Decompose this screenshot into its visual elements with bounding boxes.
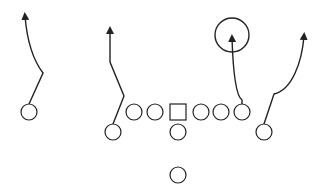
route-te-arrow xyxy=(232,38,242,104)
player-center xyxy=(170,104,186,120)
player-rb xyxy=(170,167,186,183)
route-right-wr-arrow xyxy=(264,36,304,124)
player-left-wr xyxy=(21,104,37,120)
play-canvas xyxy=(0,0,323,196)
player-slot xyxy=(105,124,121,140)
players xyxy=(21,104,272,183)
player-rg xyxy=(193,104,209,120)
routes xyxy=(25,16,304,124)
player-qb xyxy=(170,124,186,140)
route-slot-arrow xyxy=(110,30,124,124)
player-rt xyxy=(213,104,229,120)
player-te xyxy=(234,104,250,120)
route-left-wr-arrow xyxy=(25,16,43,104)
player-lg xyxy=(147,104,163,120)
player-right-wr xyxy=(256,124,272,140)
player-lt xyxy=(126,104,142,120)
play-diagram xyxy=(0,0,323,196)
